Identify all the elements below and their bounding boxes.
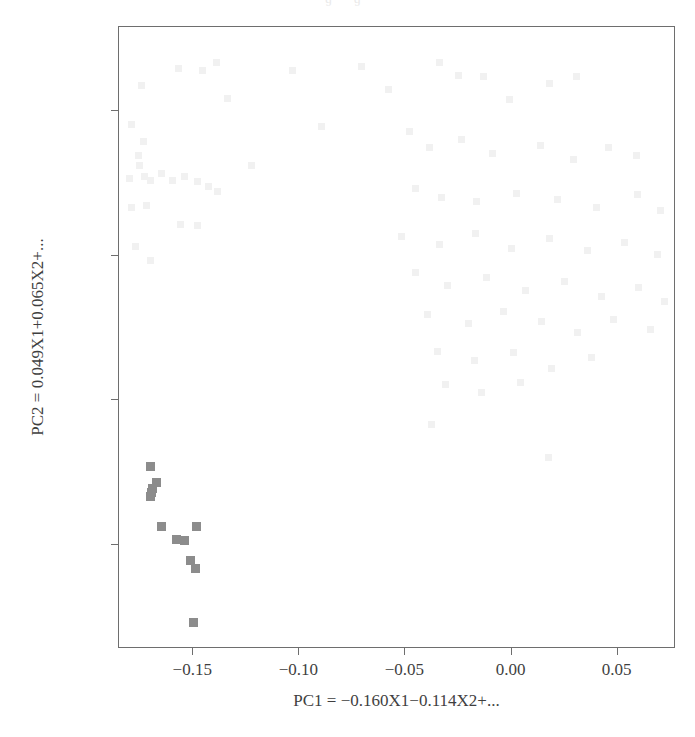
data-point [213, 59, 220, 66]
data-point [205, 183, 212, 190]
y-axis-tick [111, 110, 118, 111]
data-point [224, 95, 231, 102]
data-point [610, 316, 617, 323]
data-point [158, 170, 165, 177]
data-point [598, 293, 605, 300]
data-point [506, 96, 513, 103]
data-point [522, 287, 529, 294]
data-point [126, 175, 133, 182]
data-point [436, 241, 443, 248]
data-point [143, 202, 150, 209]
x-axis-tick-label: 0.05 [602, 660, 632, 680]
data-point [318, 123, 325, 130]
data-point [561, 278, 568, 285]
data-point [537, 142, 544, 149]
data-point [426, 144, 433, 151]
x-axis-tick [617, 648, 618, 655]
data-point [633, 152, 640, 159]
data-point [424, 311, 431, 318]
y-axis-tick [111, 399, 118, 400]
x-axis-tick-label: −0.05 [385, 660, 424, 680]
x-axis-tick-label: −0.10 [279, 660, 318, 680]
data-point [513, 190, 520, 197]
data-point [442, 381, 449, 388]
data-point [189, 618, 198, 627]
data-point [458, 136, 465, 143]
data-point [175, 65, 182, 72]
plot-frame [118, 26, 675, 648]
data-point [214, 188, 221, 195]
data-point [538, 318, 545, 325]
data-point [191, 564, 200, 573]
y-axis-label: PC2 = 0.049X1+0.065X2+... [28, 238, 48, 435]
pca-scatter-figure: −0.15−0.10−0.050.000.050.10.0−0.1−0.2 PC… [0, 0, 695, 737]
data-point [135, 152, 142, 159]
data-point [147, 257, 154, 264]
x-axis-tick [404, 648, 405, 655]
data-point [157, 522, 166, 531]
x-axis-tick [192, 648, 193, 655]
data-point [194, 178, 201, 185]
data-point [406, 128, 413, 135]
data-point [455, 72, 462, 79]
data-point [428, 421, 435, 428]
data-point [136, 162, 143, 169]
data-point [647, 326, 654, 333]
data-point [132, 243, 139, 250]
data-point [573, 73, 580, 80]
x-axis-tick-label: −0.15 [173, 660, 212, 680]
data-point [483, 274, 490, 281]
data-point [517, 379, 524, 386]
data-point [478, 389, 485, 396]
data-point [554, 196, 561, 203]
data-point [412, 269, 419, 276]
x-axis-tick [298, 648, 299, 655]
data-point [661, 298, 668, 305]
data-point [194, 222, 201, 229]
data-point [412, 185, 419, 192]
data-point [500, 308, 507, 315]
data-point [138, 82, 145, 89]
data-point [465, 320, 472, 327]
data-point [584, 247, 591, 254]
data-point [140, 138, 147, 145]
data-point [548, 365, 555, 372]
data-point [489, 150, 496, 157]
data-point [657, 207, 664, 214]
data-point [654, 251, 661, 258]
data-point [473, 198, 480, 205]
data-point [248, 162, 255, 169]
data-point [574, 329, 581, 336]
data-point [593, 204, 600, 211]
data-point [128, 121, 135, 128]
y-axis-tick [111, 255, 118, 256]
data-point [621, 239, 628, 246]
data-point [546, 235, 553, 242]
data-point [438, 194, 445, 201]
data-point [358, 63, 365, 70]
x-axis-label: PC1 = −0.160X1−0.114X2+... [118, 691, 675, 711]
data-point [199, 67, 206, 74]
data-point [635, 284, 642, 291]
data-point [434, 348, 441, 355]
data-point [545, 454, 552, 461]
y-axis-tick [111, 544, 118, 545]
data-point [508, 245, 515, 252]
data-point [385, 86, 392, 93]
data-point [634, 191, 641, 198]
data-point [480, 73, 487, 80]
data-point [181, 173, 188, 180]
data-point [289, 67, 296, 74]
data-point [436, 59, 443, 66]
data-point [180, 536, 189, 545]
data-point [128, 204, 135, 211]
x-axis-tick-label: 0.00 [496, 660, 526, 680]
data-point [146, 462, 155, 471]
data-point [192, 522, 201, 531]
data-point [147, 177, 154, 184]
data-point [444, 282, 451, 289]
data-point [570, 156, 577, 163]
plot-area [119, 27, 674, 647]
data-point [605, 144, 612, 151]
data-point [588, 354, 595, 361]
